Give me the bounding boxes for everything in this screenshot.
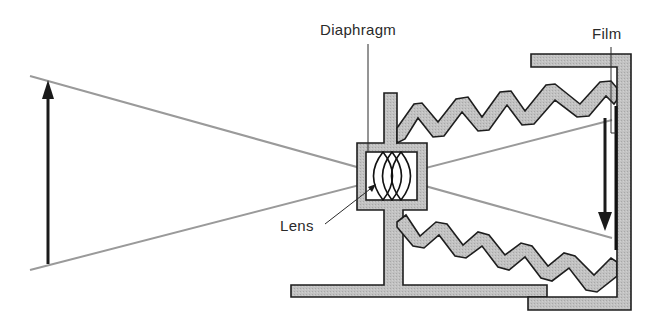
film-label: Film [592,26,622,41]
bellows-top [397,81,617,143]
camera-diagram [0,0,665,327]
lens-label: Lens [280,218,314,233]
diaphragm-label: Diaphragm [320,22,396,37]
bellows-bottom [397,215,617,292]
image-arrow-icon [598,118,612,231]
object-arrow-icon [42,80,54,264]
light-ray-top [30,76,612,238]
